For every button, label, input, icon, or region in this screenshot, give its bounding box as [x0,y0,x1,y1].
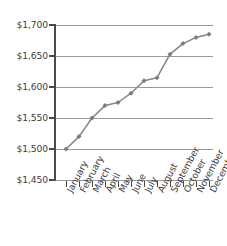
data-point-marker [207,32,212,37]
data-point-marker [194,35,199,40]
series-line [66,34,209,149]
data-series [0,0,227,246]
line-chart: $1,700$1,650$1,600$1,550$1,500$1,450 Jan… [0,0,227,246]
